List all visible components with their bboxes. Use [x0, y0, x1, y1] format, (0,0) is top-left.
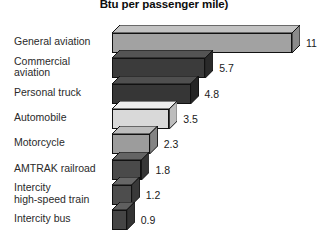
- value-label-personal-truck: 4.8: [205, 88, 220, 100]
- bar-motorcycle: [112, 126, 158, 154]
- bar-automobile: [112, 101, 177, 129]
- bar-commercial-aviation: [112, 50, 213, 78]
- value-label-general-aviation: 11: [306, 37, 317, 49]
- chart-container: Btu per passenger mile) General aviation…: [0, 0, 328, 234]
- category-label-general-aviation: General aviation: [14, 36, 90, 48]
- category-label-intercity-bus: Intercity bus: [14, 213, 71, 225]
- bar-amtrak-railroad: [112, 152, 149, 180]
- chart-title: Btu per passenger mile): [0, 0, 328, 10]
- bar-intercity-high-speed-train: [112, 177, 140, 205]
- value-label-commercial-aviation: 5.7: [219, 62, 234, 74]
- value-label-intercity-high-speed-train: 1.2: [146, 189, 161, 201]
- category-label-amtrak-railroad: AMTRAK railroad: [14, 163, 96, 175]
- category-label-commercial-aviation: Commercial aviation: [14, 56, 70, 79]
- bar-general-aviation: [112, 25, 300, 53]
- bar-front-face-intercity-bus: [112, 210, 127, 230]
- category-label-automobile: Automobile: [14, 112, 67, 124]
- category-label-motorcycle: Motorcycle: [14, 137, 65, 149]
- category-label-intercity-high-speed-train: Intercity high-speed train: [14, 182, 89, 205]
- value-label-intercity-bus: 0.9: [141, 214, 156, 226]
- value-label-motorcycle: 2.3: [164, 138, 179, 150]
- bar-personal-truck: [112, 76, 199, 104]
- category-label-personal-truck: Personal truck: [14, 87, 81, 99]
- bar-intercity-bus: [112, 202, 135, 230]
- value-label-automobile: 3.5: [183, 113, 198, 125]
- value-label-amtrak-railroad: 1.8: [155, 164, 170, 176]
